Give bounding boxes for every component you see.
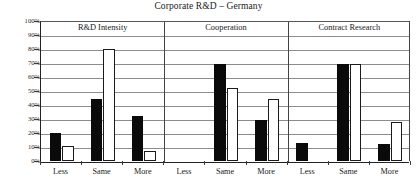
y-tick-mark — [34, 133, 39, 134]
section-title-0: R&D Intensity — [41, 23, 164, 32]
x-tick-mark — [40, 161, 41, 165]
chart-title: Corporate R&D – Germany — [0, 1, 417, 11]
gridline — [41, 36, 409, 37]
bar-hollow — [268, 99, 280, 161]
x-axis: LessSameMoreLessSameMoreLessSameMore — [40, 161, 410, 193]
bar-solid — [378, 144, 390, 161]
bar-solid — [255, 120, 267, 161]
y-axis: 100%90%80%70%60%50%40%30%20%10%0% — [0, 0, 40, 193]
y-tick-mark — [34, 49, 39, 50]
x-tick-mark — [163, 161, 164, 165]
x-tick-label: Less — [40, 167, 81, 176]
y-tick-mark — [34, 119, 39, 120]
bar-solid — [50, 133, 62, 161]
section-title-2: Contract Research — [288, 23, 411, 32]
y-tick-mark — [34, 77, 39, 78]
bar-hollow — [144, 151, 156, 161]
x-tick-mark — [410, 161, 411, 165]
x-tick-label: Same — [81, 167, 122, 176]
x-tick-label: Same — [328, 167, 369, 176]
section-divider — [164, 22, 165, 162]
x-tick-mark — [246, 161, 247, 165]
y-tick-mark — [34, 91, 39, 92]
bar-hollow — [227, 88, 239, 161]
bar-solid — [132, 116, 144, 161]
section-divider — [288, 22, 289, 162]
x-tick-mark — [81, 161, 82, 165]
x-tick-label: More — [246, 167, 287, 176]
y-tick-mark — [34, 21, 39, 22]
x-tick-mark — [122, 161, 123, 165]
x-tick-mark — [328, 161, 329, 165]
x-tick-mark — [287, 161, 288, 165]
y-tick-mark — [34, 105, 39, 106]
x-tick-mark — [204, 161, 205, 165]
y-tick-mark — [34, 161, 39, 162]
bar-hollow — [103, 49, 115, 161]
y-tick-mark — [34, 63, 39, 64]
bar-hollow — [391, 122, 403, 161]
bar-solid — [296, 143, 308, 161]
y-tick-mark — [34, 147, 39, 148]
bar-solid — [91, 99, 103, 161]
chart-container: Corporate R&D – Germany 100%90%80%70%60%… — [0, 0, 417, 193]
x-tick-label: Less — [287, 167, 328, 176]
x-tick-mark — [369, 161, 370, 165]
y-tick-mark — [34, 35, 39, 36]
x-tick-label: Less — [163, 167, 204, 176]
bar-hollow — [350, 64, 362, 161]
bar-solid — [337, 64, 349, 161]
plot-area: R&D IntensityCooperationContract Researc… — [40, 21, 410, 161]
bar-hollow — [62, 146, 74, 161]
bar-solid — [214, 64, 226, 161]
x-tick-label: More — [122, 167, 163, 176]
x-tick-label: Same — [204, 167, 245, 176]
section-header-band: R&D IntensityCooperationContract Researc… — [41, 22, 409, 37]
gridline — [41, 50, 409, 51]
x-tick-label: More — [369, 167, 410, 176]
section-title-1: Cooperation — [164, 23, 287, 32]
